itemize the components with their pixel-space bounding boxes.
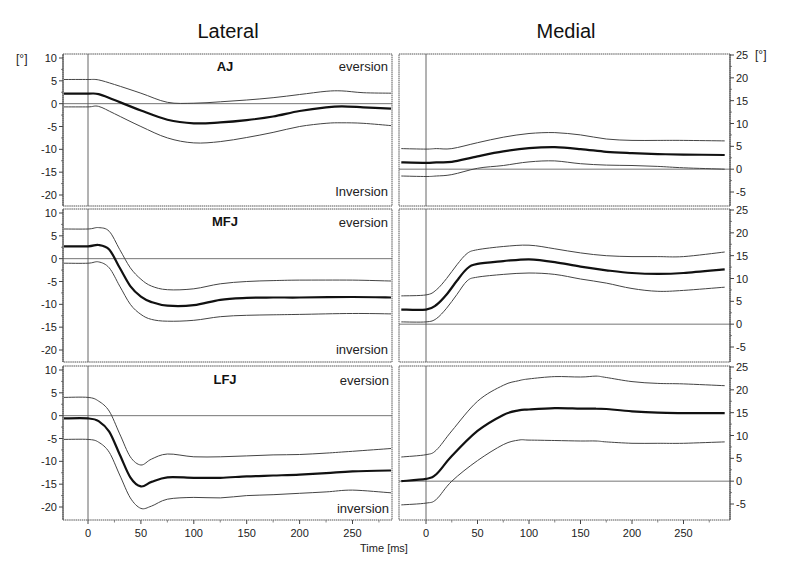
y-tick-label: 25 — [736, 49, 748, 61]
y-tick-label: 10 — [45, 364, 57, 376]
y-tick-label: 25 — [736, 361, 748, 373]
y-tick-label: 0 — [51, 98, 57, 110]
x-tick-label: 50 — [471, 527, 483, 539]
panel-frame — [399, 209, 730, 362]
x-tick-label: 100 — [185, 527, 203, 539]
sd-curve — [64, 262, 391, 322]
y-tick-label: 0 — [736, 163, 742, 175]
mean-curve — [401, 147, 724, 163]
x-tick-label: 0 — [423, 527, 429, 539]
y-tick-label: 0 — [51, 253, 57, 265]
y-tick-label: 15 — [736, 95, 748, 107]
y-tick-label: 5 — [51, 75, 57, 87]
sd-curve — [64, 106, 391, 143]
y-tick-label: 5 — [51, 230, 57, 242]
x-tick-label: 250 — [343, 527, 361, 539]
panel-lateral-aj: 1050-5-10-15-20 — [41, 52, 392, 206]
panel-frame — [399, 54, 730, 206]
y-tick-label: 5 — [51, 387, 57, 399]
x-tick-label: 100 — [520, 527, 538, 539]
figure: Lateral Medial 1050-5-10-15-202520151050… — [0, 0, 785, 580]
panel-medial-aj: 2520151050-5 — [399, 49, 748, 206]
column-title-medial: Medial — [537, 20, 596, 42]
inversion-label-mfj: inversion — [336, 342, 388, 357]
y-tick-label: -20 — [41, 189, 57, 201]
x-tick-label: 200 — [290, 527, 308, 539]
y-tick-label: 10 — [45, 207, 57, 219]
x-tick-label: 150 — [571, 527, 589, 539]
y-tick-label: -5 — [736, 186, 746, 198]
mean-curve — [401, 259, 724, 310]
y-tick-label: -15 — [41, 166, 57, 178]
y-tick-label: -10 — [41, 298, 57, 310]
mean-curve — [64, 245, 391, 306]
panel-medial-lfj: 2520151050-5050100150200250 — [399, 361, 748, 539]
y-tick-label: 10 — [45, 52, 57, 64]
y-tick-label: -10 — [41, 143, 57, 155]
x-tick-label: 200 — [623, 527, 641, 539]
sd-curve — [64, 397, 391, 465]
y-tick-label: 25 — [736, 204, 748, 216]
y-tick-label: -15 — [41, 478, 57, 490]
y-tick-label: 0 — [736, 318, 742, 330]
sd-curve — [401, 245, 724, 296]
y-tick-label: 15 — [736, 407, 748, 419]
y-tick-label: 20 — [736, 72, 748, 84]
y-tick-label: -5 — [47, 121, 57, 133]
y-tick-label: 5 — [736, 452, 742, 464]
joint-label-lfj: LFJ — [213, 372, 236, 387]
x-tick-label: 50 — [135, 527, 147, 539]
y-tick-label: 20 — [736, 384, 748, 396]
panel-medial-mfj: 2520151050-5 — [399, 204, 748, 362]
y-tick-label: -15 — [41, 321, 57, 333]
y-tick-label: 5 — [736, 140, 742, 152]
y-tick-label: 5 — [736, 295, 742, 307]
y-unit-label-right: [°] — [755, 48, 766, 62]
y-tick-label: 15 — [736, 250, 748, 262]
y-tick-label: -5 — [736, 341, 746, 353]
joint-label-mfj: MFJ — [212, 214, 238, 229]
panel-frame — [63, 209, 392, 362]
sd-curve — [64, 439, 391, 509]
panels: 1050-5-10-15-202520151050-51050-5-10-15-… — [41, 49, 748, 539]
x-tick-label: 0 — [85, 527, 91, 539]
y-tick-label: 20 — [736, 227, 748, 239]
sd-curve — [401, 273, 724, 322]
panel-frame — [63, 366, 392, 520]
sd-curve — [401, 440, 724, 505]
y-tick-label: -5 — [47, 276, 57, 288]
y-tick-label: -5 — [47, 433, 57, 445]
x-axis-label: Time [ms] — [360, 542, 408, 554]
y-tick-label: -5 — [736, 498, 746, 510]
eversion-label-lfj: eversion — [340, 373, 389, 388]
eversion-label-aj: eversion — [339, 59, 388, 74]
y-tick-label: 10 — [736, 118, 748, 130]
y-tick-label: 0 — [51, 410, 57, 422]
eversion-label-mfj: eversion — [339, 215, 388, 230]
y-unit-label-left: [°] — [16, 52, 27, 66]
x-tick-label: 150 — [238, 527, 256, 539]
inversion-label-aj: Inversion — [335, 184, 388, 199]
column-title-lateral: Lateral — [197, 20, 258, 42]
joint-label-aj: AJ — [217, 59, 234, 74]
mean-curve — [401, 408, 724, 481]
panel-lateral-mfj: 1050-5-10-15-20 — [41, 207, 392, 362]
x-tick-label: 250 — [674, 527, 692, 539]
inversion-label-lfj: inversion — [337, 501, 389, 516]
sd-curve — [401, 376, 724, 457]
mean-curve — [64, 93, 391, 123]
y-tick-label: 0 — [736, 475, 742, 487]
y-tick-label: 10 — [736, 273, 748, 285]
y-tick-label: 10 — [736, 430, 748, 442]
y-tick-label: -20 — [41, 344, 57, 356]
y-tick-label: -10 — [41, 455, 57, 467]
y-tick-label: -20 — [41, 501, 57, 513]
